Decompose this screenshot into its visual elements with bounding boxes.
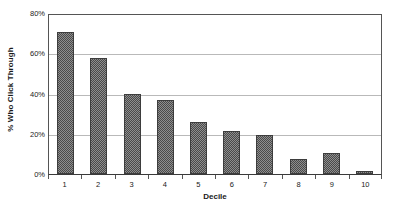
x-axis-tick-label: 7 xyxy=(248,180,281,192)
bar-slot xyxy=(315,15,348,174)
bar-slot xyxy=(149,15,182,174)
bar-slot xyxy=(115,15,148,174)
bar-slot xyxy=(182,15,215,174)
bar-slot xyxy=(281,15,314,174)
bar-decile-10 xyxy=(356,171,373,174)
bar-decile-9 xyxy=(323,153,340,174)
x-axis-tick-label: 8 xyxy=(282,180,315,192)
bar-chart-figure: % Who Click Through 0%20%40%60%80% 12345… xyxy=(0,0,393,208)
y-axis-tick-label: 60% xyxy=(30,50,45,58)
x-axis-tick-label: 2 xyxy=(81,180,114,192)
x-axis-tick-mark xyxy=(282,175,283,179)
x-axis-tick-mark xyxy=(48,175,49,179)
y-axis-tick-label: 80% xyxy=(30,10,45,18)
bar-slot xyxy=(248,15,281,174)
y-axis-title-label: % Who Click Through xyxy=(6,47,15,132)
x-axis-tick-label: 4 xyxy=(148,180,181,192)
x-axis-title: Decile xyxy=(48,192,382,202)
x-axis-tick-label: 10 xyxy=(349,180,382,192)
x-axis-tick-mark xyxy=(248,175,249,179)
x-axis-tick-label: 1 xyxy=(48,180,81,192)
y-axis-tick-label: 20% xyxy=(30,131,45,139)
y-axis-title: % Who Click Through xyxy=(0,0,20,178)
bar-decile-1 xyxy=(57,32,74,174)
x-axis-tick-mark xyxy=(381,175,382,179)
bar-decile-4 xyxy=(157,100,174,174)
bars-layer xyxy=(49,15,381,174)
bar-decile-6 xyxy=(223,131,240,174)
plot-area xyxy=(48,14,382,175)
x-axis-tick-labels: 12345678910 xyxy=(48,180,382,192)
x-axis-tick-mark xyxy=(148,175,149,179)
y-axis-tick-label: 40% xyxy=(30,91,45,99)
x-axis-tick-mark xyxy=(349,175,350,179)
x-axis-tick-mark xyxy=(215,175,216,179)
bar-decile-2 xyxy=(90,58,107,174)
x-axis-tick-label: 9 xyxy=(315,180,348,192)
x-axis-tick-mark xyxy=(81,175,82,179)
bar-decile-3 xyxy=(124,94,141,174)
y-axis-tick-labels: 0%20%40%60%80% xyxy=(20,0,48,178)
bar-slot xyxy=(49,15,82,174)
bar-slot xyxy=(348,15,381,174)
x-axis-tick-label: 5 xyxy=(182,180,215,192)
bar-decile-8 xyxy=(290,159,307,174)
bar-decile-7 xyxy=(256,135,273,174)
x-axis-tick-mark xyxy=(115,175,116,179)
x-axis-tick-mark xyxy=(182,175,183,179)
bar-decile-5 xyxy=(190,122,207,174)
x-axis-tick-mark xyxy=(315,175,316,179)
bar-slot xyxy=(215,15,248,174)
x-axis-tick-label: 6 xyxy=(215,180,248,192)
x-axis-tick-label: 3 xyxy=(115,180,148,192)
bar-slot xyxy=(82,15,115,174)
y-axis-tick-label: 0% xyxy=(34,171,45,179)
